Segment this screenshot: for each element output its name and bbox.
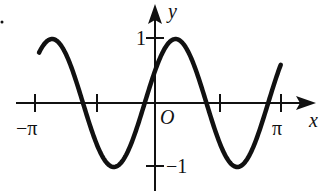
label-origin: O xyxy=(160,106,174,128)
label-pi: π xyxy=(272,117,282,139)
label-x-axis: x xyxy=(308,109,318,131)
stray-mark xyxy=(1,21,4,24)
label-neg-one: −1 xyxy=(166,155,187,177)
label-y-axis: y xyxy=(166,0,177,23)
label-one: 1 xyxy=(136,27,146,49)
sinusoid-graph: −π π x y O 1 −1 xyxy=(0,0,331,191)
label-neg-pi: −π xyxy=(16,117,37,139)
